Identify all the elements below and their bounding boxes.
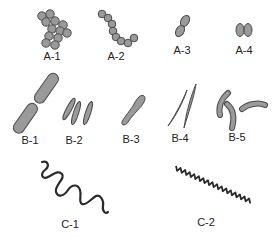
bacteria-morphology-diagram: A-1 A-2 A-3 A-4 B-1 B-2 B-3 B-4 B-5 C-1 … — [0, 0, 276, 238]
b1-rods-shape — [11, 71, 61, 135]
label-a1: A-1 — [43, 51, 60, 62]
label-b3: B-3 — [122, 134, 139, 145]
b5-curved-shape — [219, 93, 265, 128]
label-c2: C-2 — [197, 217, 215, 228]
a4-diplococci-shape — [236, 24, 252, 37]
label-a3: A-3 — [173, 45, 190, 56]
label-a4: A-4 — [235, 45, 252, 56]
label-b1: B-1 — [21, 135, 38, 146]
a3-diplococci-shape — [174, 14, 192, 38]
label-b4: B-4 — [171, 133, 188, 144]
a1-cluster-shape — [38, 10, 71, 49]
b4-needle-shape — [168, 84, 196, 128]
label-b5: B-5 — [228, 132, 245, 143]
label-b2: B-2 — [65, 135, 82, 146]
label-a2: A-2 — [107, 51, 124, 62]
b2-fusiform-shape — [61, 97, 94, 125]
c1-spiral-shape — [42, 162, 108, 213]
label-c1: C-1 — [61, 219, 79, 230]
c2-spiral-shape — [174, 166, 251, 203]
a2-chain-shape — [98, 10, 138, 47]
b3-club-shape — [122, 95, 145, 125]
